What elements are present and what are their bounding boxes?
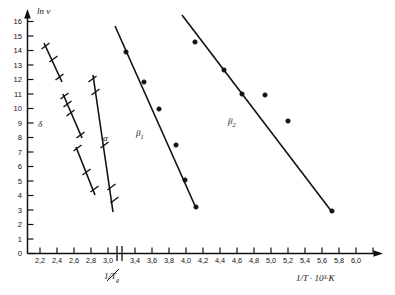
y-tick-label: 15 (14, 32, 22, 41)
y-tick-label: 4 (18, 191, 22, 200)
x-tick-label: 5,8 (334, 256, 344, 265)
x-tick-label: 5,2 (283, 256, 293, 265)
y-axis-title: ln ν (37, 6, 50, 16)
axes (24, 9, 383, 257)
y-tick-label: 7 (18, 148, 22, 157)
y-tick-label: 10 (14, 104, 22, 113)
y-tick-label: 1 (18, 235, 22, 244)
svg-text:1/Tg: 1/Tg (104, 271, 120, 283)
x-tick-label: 2,6 (69, 256, 79, 265)
y-tick-label: 0 (18, 249, 22, 258)
fit-line (182, 15, 332, 212)
x-tick-label: 2,4 (52, 256, 62, 265)
x-tick-label: 3,0 (103, 256, 113, 265)
y-tick-label: 2 (18, 220, 22, 229)
x-tick-labels-left: 2,2 2,4 2,6 2,8 3,0 (35, 256, 113, 265)
x-tick-label: 4,6 (232, 256, 242, 265)
series-beta1 (115, 26, 198, 209)
figure-canvas: 0 1 2 3 4 5 6 7 8 9 10 11 12 13 14 15 16… (0, 0, 395, 295)
y-tick-label: 6 (18, 162, 22, 171)
y-tick-label: 9 (18, 119, 22, 128)
curve-label-beta1: β1 (135, 128, 144, 140)
x-tick-label: 4,2 (198, 256, 208, 265)
x-tick-label: 4,8 (249, 256, 259, 265)
chart-svg: 0 1 2 3 4 5 6 7 8 9 10 11 12 13 14 15 16… (0, 0, 395, 295)
fit-line (44, 43, 62, 82)
y-tick-label: 3 (18, 206, 22, 215)
series-beta2 (182, 15, 334, 213)
x-tick-label: 6,0 (351, 256, 361, 265)
y-tick-label: 13 (14, 61, 22, 70)
x-ticks-left (40, 248, 108, 254)
x-tick-label: 3,4 (130, 256, 140, 265)
x-tick-label: 3,8 (164, 256, 174, 265)
y-tick-labels: 0 1 2 3 4 5 6 7 8 9 10 11 12 13 14 15 16 (14, 17, 22, 258)
secondary-label-sub: g (116, 276, 120, 283)
curve-label-alpha: α (103, 133, 108, 143)
x-tick-label: 3,6 (147, 256, 157, 265)
series-delta-3 (74, 145, 99, 195)
y-tick-label: 16 (14, 17, 22, 26)
y-axis-arrow (24, 9, 31, 19)
x-axis-title: 1/T · 10³·K (296, 273, 336, 283)
y-tick-label: 11 (14, 90, 22, 99)
x-axis-arrow (374, 250, 384, 257)
beta2-sub: 2 (232, 121, 236, 128)
series-delta-1 (42, 43, 64, 82)
x-tick-labels-right: 3,4 3,6 3,8 4,0 4,2 4,4 4,6 4,8 5,0 5,2 … (130, 256, 361, 265)
x-tick-label: 5,0 (266, 256, 276, 265)
x-axis-secondary-label: 1/Tg (104, 269, 120, 283)
fit-line (76, 147, 95, 195)
x-tick-label: 5,6 (317, 256, 327, 265)
x-tick-label: 4,0 (181, 256, 191, 265)
y-tick-label: 5 (18, 177, 22, 186)
y-tick-label: 14 (14, 46, 22, 55)
x-tick-label: 4,4 (215, 256, 225, 265)
x-tick-label: 2,2 (35, 256, 45, 265)
fit-line (63, 94, 82, 138)
y-ticks (28, 22, 34, 254)
y-tick-label: 8 (18, 133, 22, 142)
x-ticks-right (135, 248, 356, 254)
curve-label-delta: δ (38, 119, 43, 129)
curve-label-beta2: β2 (227, 116, 236, 128)
y-tick-label: 12 (14, 75, 22, 84)
fit-line (93, 75, 113, 212)
series-delta-2 (61, 93, 85, 138)
x-tick-label: 2,8 (86, 256, 96, 265)
beta1-sub: 1 (140, 133, 143, 140)
x-tick-label: 5,4 (300, 256, 310, 265)
